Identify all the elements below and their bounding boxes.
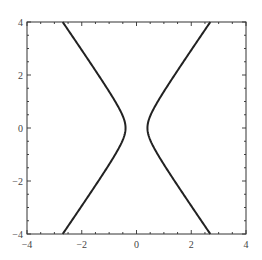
y-tick-label: 0 (18, 123, 23, 134)
y-tick-label: 2 (18, 70, 23, 81)
x-tick-label: 4 (244, 239, 249, 250)
x-tick-label: 0 (134, 239, 139, 250)
left-branch (63, 22, 126, 234)
curves (63, 22, 211, 234)
x-tick-label: −4 (22, 239, 33, 250)
tick-labels: −4−2024−4−2024 (12, 17, 248, 251)
right-branch (147, 22, 210, 234)
x-tick-label: −2 (76, 239, 87, 250)
hyperbola-plot: −4−2024−4−2024 (0, 0, 262, 260)
y-tick-label: −4 (12, 229, 23, 240)
x-tick-label: 2 (189, 239, 194, 250)
axis-ticks (27, 22, 246, 234)
y-tick-label: 4 (18, 17, 23, 28)
plot-frame (27, 22, 246, 234)
y-tick-label: −2 (12, 176, 23, 187)
